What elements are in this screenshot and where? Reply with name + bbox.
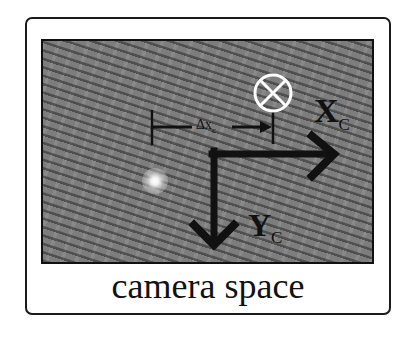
- y-axis-label: YC: [248, 208, 282, 255]
- x-axis-label: XC: [314, 93, 350, 143]
- delta-x-label: Δxc: [196, 117, 216, 135]
- figure-caption: camera space: [25, 264, 391, 308]
- y-axis-subscript: C: [271, 228, 282, 247]
- x-axis-subscript: C: [339, 115, 350, 134]
- otimes-icon: [255, 75, 291, 111]
- y-axis-arrow-icon: [194, 151, 234, 245]
- delta-x-subscript: c: [212, 125, 216, 135]
